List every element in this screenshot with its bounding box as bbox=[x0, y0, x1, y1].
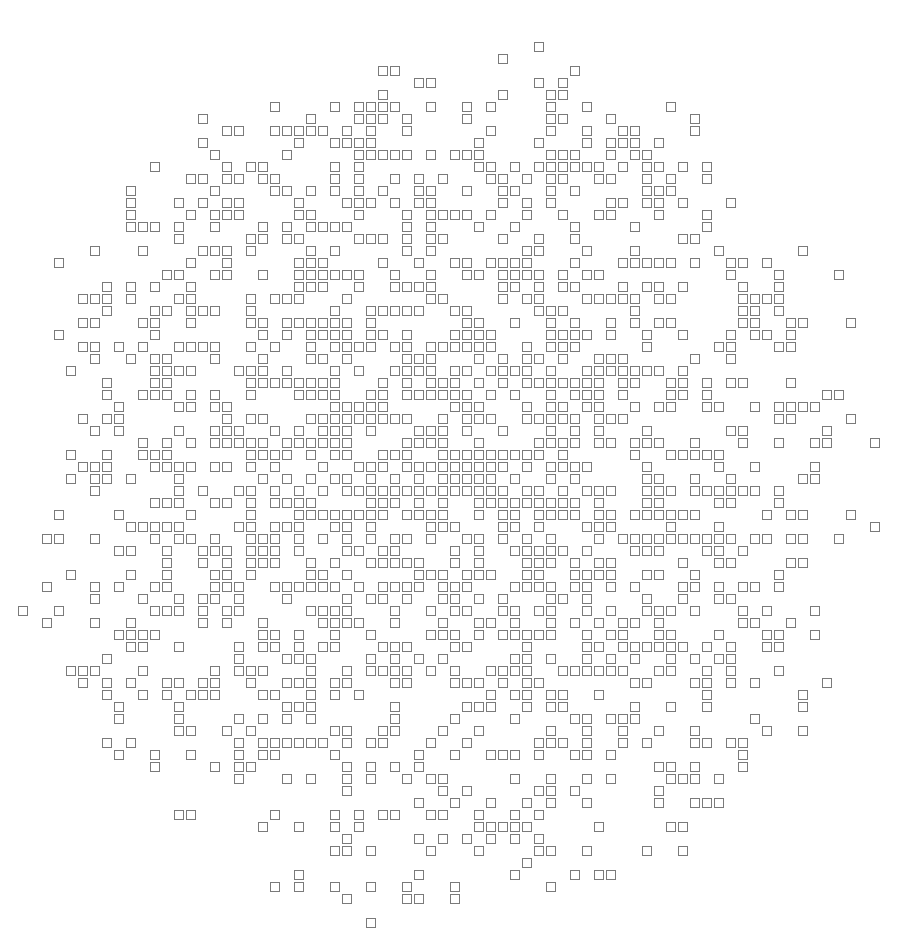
square-scatter-pattern bbox=[0, 0, 900, 943]
artwork-canvas bbox=[0, 0, 900, 943]
